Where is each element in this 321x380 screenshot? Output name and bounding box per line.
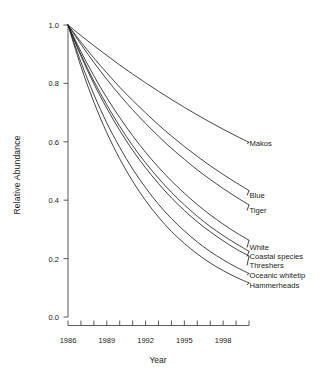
- y-tick-label-0.4: 0.4: [49, 196, 59, 205]
- series-line-white: [68, 25, 249, 240]
- x-tick-label-1995: 1995: [176, 336, 193, 345]
- series-label-blue: Blue: [250, 191, 265, 200]
- x-tick-labels: 1986 1989 1992 1995 1998: [60, 336, 232, 345]
- series-lines: [68, 25, 249, 283]
- series-line-blue: [68, 25, 249, 191]
- x-axis: [68, 321, 249, 326]
- x-tick-label-1986: 1986: [60, 336, 77, 345]
- y-tick-labels: 1.0 0.8 0.6 0.4 0.2 0.0: [49, 21, 59, 322]
- series-label-threshers: Threshers: [250, 261, 284, 270]
- y-tick-label-1.0: 1.0: [49, 21, 59, 30]
- chart-page: 1.0 0.8 0.6 0.4 0.2 0.0 1986: [0, 0, 321, 380]
- x-tick-label-1992: 1992: [137, 336, 154, 345]
- series-label-tiger: Tiger: [250, 206, 267, 215]
- y-axis: [64, 25, 69, 317]
- series-labels: MakosBlueTigerWhiteCoastal speciesThresh…: [250, 139, 306, 290]
- series-label-makos: Makos: [250, 139, 273, 148]
- abundance-decline-line-chart: 1.0 0.8 0.6 0.4 0.2 0.0 1986: [0, 0, 321, 380]
- y-tick-label-0.8: 0.8: [49, 79, 59, 88]
- series-line-oceanic-whitetip: [68, 25, 249, 273]
- series-label-oceanic-whitetip: Oceanic whitetip: [250, 271, 306, 280]
- y-tick-label-0.2: 0.2: [49, 255, 59, 264]
- x-tick-label-1989: 1989: [98, 336, 115, 345]
- y-axis-title-wrap: Relative Abundance: [2, 120, 24, 240]
- y-axis-title: Relative Abundance: [12, 120, 22, 230]
- x-axis-title: Year: [149, 355, 166, 365]
- y-tick-label-0.0: 0.0: [49, 313, 59, 322]
- series-label-white: White: [250, 243, 269, 252]
- series-label-hammerheads: Hammerheads: [250, 281, 300, 290]
- y-tick-label-0.6: 0.6: [49, 138, 59, 147]
- x-tick-label-1998: 1998: [215, 336, 232, 345]
- series-label-coastal-species: Coastal species: [250, 252, 304, 261]
